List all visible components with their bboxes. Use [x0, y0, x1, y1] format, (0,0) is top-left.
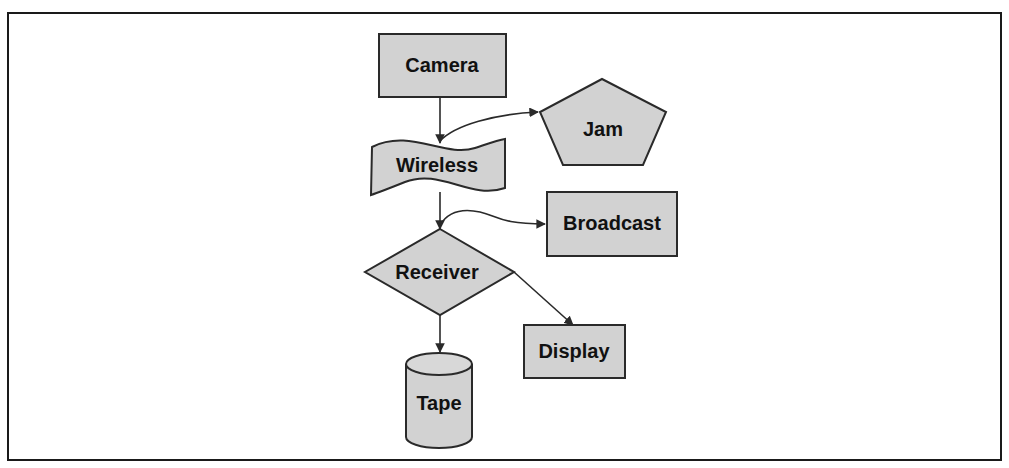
flowchart: Camera Wireless Jam Broadcast Receiver D…: [0, 0, 1009, 468]
node-tape: Tape: [406, 353, 472, 448]
node-wireless: Wireless: [371, 139, 505, 195]
edge-wireless-broadcast: [440, 211, 545, 225]
node-receiver: Receiver: [365, 229, 514, 315]
edge-wireless-jam: [440, 112, 538, 141]
node-display: Display: [524, 325, 625, 378]
node-tape-label: Tape: [416, 392, 461, 414]
node-wireless-label: Wireless: [396, 154, 478, 176]
node-camera-label: Camera: [405, 54, 479, 76]
edge-receiver-display: [514, 272, 573, 325]
node-broadcast-label: Broadcast: [563, 212, 661, 234]
node-receiver-label: Receiver: [395, 261, 479, 283]
node-jam: Jam: [540, 79, 666, 165]
node-display-label: Display: [538, 340, 610, 362]
node-broadcast: Broadcast: [547, 192, 677, 256]
node-camera: Camera: [379, 34, 506, 97]
node-jam-label: Jam: [583, 118, 623, 140]
